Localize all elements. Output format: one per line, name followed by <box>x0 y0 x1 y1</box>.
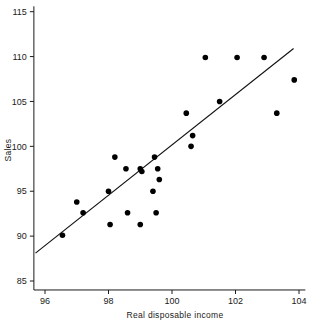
y-tick-group: 859095100105110115 <box>12 7 34 286</box>
data-point <box>106 188 112 194</box>
data-point <box>137 222 143 228</box>
data-point <box>152 154 158 160</box>
y-tick-label: 90 <box>17 231 27 241</box>
x-tick-label: 102 <box>228 296 243 306</box>
y-axis: 859095100105110115 <box>12 6 34 290</box>
data-point <box>139 169 145 175</box>
data-point <box>190 133 196 139</box>
data-point <box>157 177 163 183</box>
data-point <box>217 99 223 105</box>
x-tick-label: 104 <box>291 296 306 306</box>
data-point <box>203 55 209 61</box>
y-tick-label: 115 <box>13 7 27 17</box>
data-point <box>291 77 297 83</box>
data-points-group <box>60 55 297 238</box>
data-point <box>125 210 131 216</box>
y-tick-label: 85 <box>17 276 27 286</box>
x-axis: 9698100102104 <box>34 290 307 306</box>
x-tick-group: 9698100102104 <box>40 290 307 306</box>
x-tick-label: 96 <box>40 296 50 306</box>
plot-area: 859095100105110115 9698100102104 Real di… <box>0 0 315 326</box>
data-point <box>188 144 194 150</box>
data-point <box>261 55 267 61</box>
y-tick-label: 95 <box>17 186 27 196</box>
x-tick-label: 98 <box>103 296 113 306</box>
data-point <box>234 55 240 61</box>
data-point <box>153 210 159 216</box>
data-point <box>80 210 86 216</box>
y-tick-label: 110 <box>13 52 27 62</box>
x-axis-title: Real disposable income <box>127 310 224 320</box>
data-point <box>107 222 113 228</box>
data-point <box>60 232 66 238</box>
data-point <box>150 188 156 194</box>
x-tick-label: 100 <box>164 296 179 306</box>
data-point <box>123 166 129 172</box>
data-point <box>183 110 189 116</box>
regression-line <box>35 49 293 254</box>
y-tick-label: 100 <box>12 142 27 152</box>
scatter-chart: 859095100105110115 9698100102104 Real di… <box>0 0 315 326</box>
data-point <box>74 199 80 205</box>
data-point <box>274 110 280 116</box>
data-point <box>155 166 161 172</box>
y-axis-title: Sales <box>3 139 13 162</box>
y-tick-label: 105 <box>12 97 27 107</box>
data-point <box>112 154 118 160</box>
